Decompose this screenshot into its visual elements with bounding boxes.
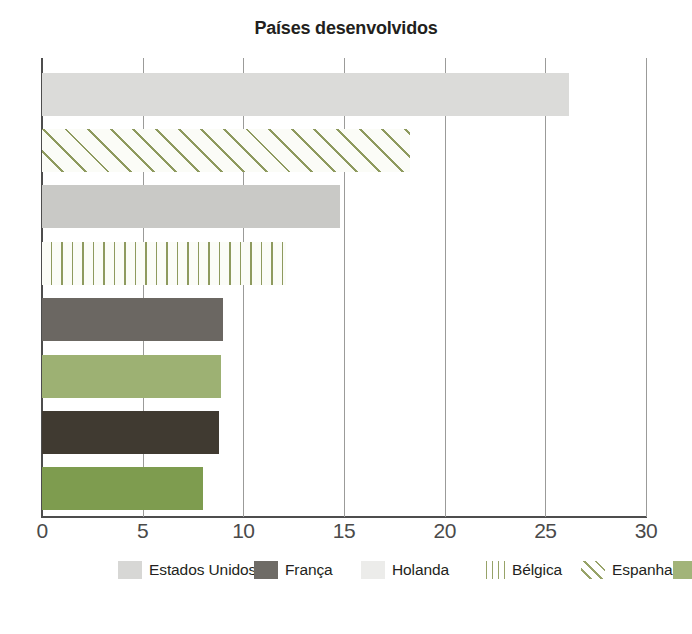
bar-row (42, 411, 646, 454)
legend-label-holanda: Holanda (392, 561, 449, 579)
bar-row (42, 73, 646, 116)
legend-label-espanha: Espanha (612, 561, 673, 579)
chart-figure: Países desenvolvidos 051015202530 Estado… (0, 0, 692, 634)
legend-swatch-belgica (481, 561, 505, 579)
x-tick-label-20: 20 (433, 519, 455, 543)
legend-swatch-franca (254, 561, 278, 579)
legend-swatch-alemanha (673, 561, 692, 579)
legend-item-holanda[interactable]: Holanda (361, 557, 481, 582)
x-tick-label-10: 10 (232, 519, 254, 543)
bar-row (42, 298, 646, 341)
chart-legend: Estados UnidosFrançaHolandaBélgicaEspanh… (118, 557, 584, 582)
legend-swatch-holanda (361, 561, 385, 579)
legend-item-belgica[interactable]: Bélgica (481, 557, 581, 582)
gridline-30 (646, 58, 647, 517)
bar-belgica[interactable] (42, 242, 286, 285)
x-tick-label-5: 5 (137, 519, 148, 543)
legend-swatch-estados-unidos (118, 561, 142, 579)
legend-item-alemanha[interactable]: Alemanha (673, 557, 692, 582)
bar-estados-unidos[interactable] (42, 73, 569, 116)
bar-alemanha[interactable] (42, 355, 221, 398)
bar-row (42, 355, 646, 398)
bar-holanda[interactable] (42, 185, 340, 228)
legend-item-espanha[interactable]: Espanha (581, 557, 673, 582)
x-axis-tick-labels: 051015202530 (42, 519, 646, 549)
bar-row (42, 242, 646, 285)
x-tick-label-0: 0 (36, 519, 47, 543)
bar-row (42, 467, 646, 510)
legend-swatch-espanha (581, 561, 605, 579)
x-tick-label-25: 25 (534, 519, 556, 543)
legend-label-belgica: Bélgica (512, 561, 562, 579)
bar-japao[interactable] (42, 411, 219, 454)
legend-label-franca: França (285, 561, 333, 579)
chart-title: Países desenvolvidos (0, 18, 692, 39)
bar-espanha[interactable] (42, 129, 410, 172)
x-tick-label-30: 30 (635, 519, 657, 543)
legend-item-estados-unidos[interactable]: Estados Unidos (118, 557, 254, 582)
x-tick-label-15: 15 (333, 519, 355, 543)
bar-row (42, 129, 646, 172)
legend-item-franca[interactable]: França (254, 557, 361, 582)
legend-label-estados-unidos: Estados Unidos (149, 561, 256, 579)
bar-franca[interactable] (42, 298, 223, 341)
bar-italia[interactable] (42, 467, 203, 510)
plot-area (42, 66, 646, 517)
bar-row (42, 185, 646, 228)
